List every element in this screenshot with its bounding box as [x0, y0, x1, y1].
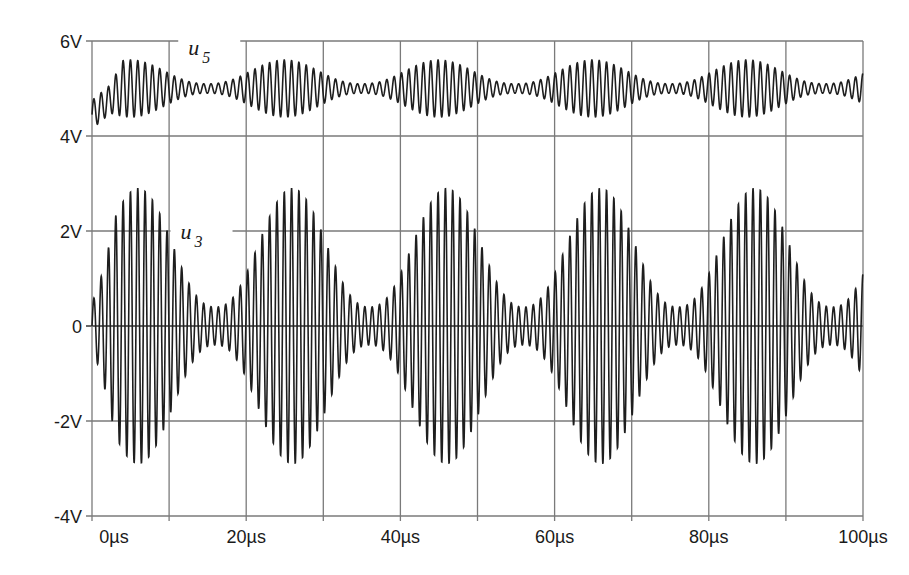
- y-tick-label: -4V: [54, 507, 82, 527]
- x-tick-label: 100µs: [838, 527, 887, 547]
- chart: 6V4V2V0-2V-4V 0µs20µs40µs60µs80µs100µs u…: [0, 0, 909, 575]
- x-tick-label: 60µs: [535, 527, 574, 547]
- x-tick-label: 40µs: [381, 527, 420, 547]
- y-axis-ticks: 6V4V2V0-2V-4V: [54, 32, 82, 527]
- x-tick-label: 80µs: [689, 527, 728, 547]
- series-labels: u5u3: [181, 35, 211, 250]
- y-tick-label: -2V: [54, 412, 82, 432]
- x-tick-label: 0µs: [99, 527, 128, 547]
- x-axis-ticks: 0µs20µs40µs60µs80µs100µs: [99, 527, 887, 547]
- series-label-u5: u5: [188, 35, 210, 66]
- y-tick-label: 2V: [60, 222, 82, 242]
- y-tick-label: 6V: [60, 32, 82, 52]
- y-tick-label: 4V: [60, 127, 82, 147]
- x-tick-label: 20µs: [226, 527, 265, 547]
- series-label-u3: u3: [181, 219, 203, 250]
- y-tick-label: 0: [72, 317, 82, 337]
